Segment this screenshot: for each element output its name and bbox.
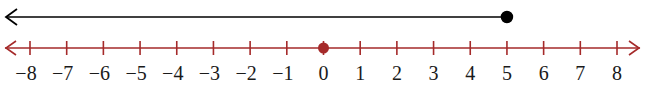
tick-label: −5 bbox=[125, 62, 146, 84]
number-line-axis bbox=[5, 41, 640, 55]
tick-label: 1 bbox=[355, 62, 365, 84]
tick-label: 4 bbox=[465, 62, 475, 84]
tick-label: −7 bbox=[52, 62, 73, 84]
tick-label: 2 bbox=[392, 62, 402, 84]
solution-ray bbox=[6, 9, 512, 25]
tick-label: 8 bbox=[612, 62, 622, 84]
tick-label: −2 bbox=[235, 62, 256, 84]
tick-label: 5 bbox=[502, 62, 512, 84]
tick-label: −4 bbox=[162, 62, 183, 84]
tick-label: −8 bbox=[15, 62, 36, 84]
tick-label: 6 bbox=[539, 62, 549, 84]
number-line-diagram: −8−7−6−5−4−3−2−1012345678 bbox=[0, 0, 645, 85]
tick-label: −1 bbox=[272, 62, 293, 84]
ray-endpoint-dot bbox=[501, 12, 512, 23]
axis-point-marker bbox=[318, 43, 329, 54]
tick-labels: −8−7−6−5−4−3−2−1012345678 bbox=[15, 62, 622, 84]
tick-label: −3 bbox=[199, 62, 220, 84]
tick-label: 7 bbox=[575, 62, 585, 84]
tick-label: 3 bbox=[429, 62, 439, 84]
tick-label: 0 bbox=[319, 62, 329, 84]
tick-label: −6 bbox=[89, 62, 110, 84]
